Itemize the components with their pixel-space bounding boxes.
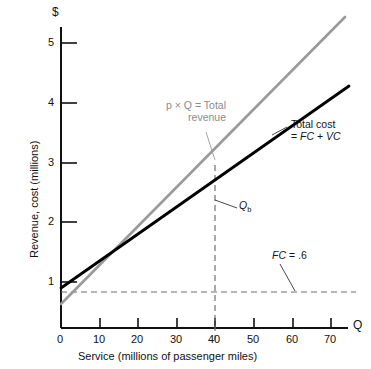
x-tick-label-10: 10 <box>93 333 105 345</box>
total-revenue-annotation: p × Q = Total revenue <box>142 100 226 124</box>
y-axis-title: Revenue, cost (millions) <box>28 141 40 258</box>
total-cost-eq-prefix: = <box>291 130 300 142</box>
y-tick-marks <box>61 43 77 282</box>
total-revenue-annotation-line1: p × Q = Total <box>142 100 226 112</box>
total-revenue-annotation-line2: revenue <box>142 112 226 124</box>
y-tick-label-2: 2 <box>38 215 54 227</box>
breakeven-subscript: b <box>247 205 251 214</box>
fixed-cost-fc-symbol: FC <box>272 249 286 261</box>
total-cost-annotation-line2: = FC + VC <box>291 131 341 143</box>
breakeven-q-symbol: Q <box>239 199 247 211</box>
x-tick-label-20: 20 <box>131 333 143 345</box>
y-axis-symbol: $ <box>52 6 59 19</box>
fixed-cost-annotation: FC = .6 <box>272 250 307 262</box>
y-tick-label-3: 3 <box>38 156 54 168</box>
x-tick-label-40: 40 <box>208 333 220 345</box>
x-tick-label-30: 30 <box>170 333 182 345</box>
total-cost-vc-term: VC <box>326 130 341 142</box>
x-tick-label-0: 0 <box>57 333 63 345</box>
y-tick-label-4: 4 <box>38 96 54 108</box>
fixed-cost-value: = .6 <box>286 249 307 261</box>
total-cost-plus-sign: + <box>314 130 326 142</box>
y-tick-label-5: 5 <box>38 36 54 48</box>
breakeven-annotation: Qb <box>239 200 251 214</box>
breakeven-leader-line <box>215 200 237 208</box>
breakeven-chart: $ Q 5 4 3 2 1 0 10 20 30 40 50 60 70 Ser… <box>0 0 371 369</box>
y-tick-label-1: 1 <box>38 275 54 287</box>
x-tick-label-50: 50 <box>247 333 259 345</box>
total-cost-fc-term: FC <box>300 130 314 142</box>
x-tick-label-70: 70 <box>324 333 336 345</box>
total-cost-annotation: Total cost = FC + VC <box>291 119 341 143</box>
x-axis-title: Service (millions of passenger miles) <box>78 350 257 362</box>
fixed-cost-leader-line <box>280 264 295 291</box>
x-tick-label-60: 60 <box>286 333 298 345</box>
x-axis-symbol: Q <box>353 319 362 332</box>
chart-canvas <box>0 0 371 369</box>
